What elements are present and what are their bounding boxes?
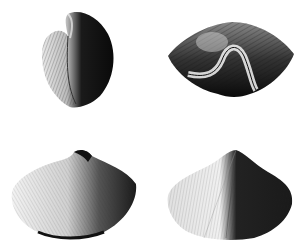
shell-anterior-view bbox=[166, 14, 298, 98]
fossil-shell-plate bbox=[0, 0, 304, 252]
shell-lateral-view bbox=[28, 8, 118, 112]
shell-dorsal-view bbox=[8, 144, 140, 240]
shell-ventral-view bbox=[164, 144, 296, 242]
